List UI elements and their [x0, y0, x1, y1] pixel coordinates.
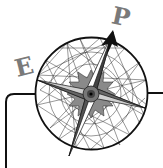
frame-line-left — [6, 94, 36, 168]
hub-center — [89, 92, 92, 95]
compass-rose-icon — [0, 0, 163, 168]
